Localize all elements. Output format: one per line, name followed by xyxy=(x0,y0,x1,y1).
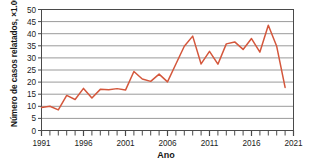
y-tick-label: 15 xyxy=(27,90,37,99)
y-tick-labels-group: 05101520253035404550 xyxy=(27,6,37,136)
y-tick-label: 20 xyxy=(27,78,37,87)
y-tick-label: 40 xyxy=(27,30,37,39)
y-tick-label: 0 xyxy=(31,127,36,136)
y-tick-label: 45 xyxy=(27,18,37,27)
x-tick-label: 1996 xyxy=(74,139,93,148)
y-tick-label: 35 xyxy=(27,42,37,51)
y-tick-label: 30 xyxy=(27,54,37,63)
x-tick-label: 2011 xyxy=(201,139,219,148)
chart-plot-svg: 05101520253035404550 1991199620012006201… xyxy=(0,0,309,165)
y-tick-marks-group xyxy=(38,10,42,131)
y-tick-label: 50 xyxy=(27,6,37,15)
line-chart-figure: Número de casos relatados, ×1.000 Ano 05… xyxy=(0,0,309,165)
y-tick-label: 5 xyxy=(31,114,36,123)
x-tick-label: 2021 xyxy=(284,139,303,148)
x-tick-marks-group xyxy=(42,131,294,137)
x-tick-label: 2001 xyxy=(116,139,135,148)
x-tick-label: 2016 xyxy=(242,139,261,148)
x-tick-labels-group: 1991199620012006201120162021 xyxy=(32,139,303,148)
x-tick-label: 2006 xyxy=(158,139,177,148)
x-tick-label: 1991 xyxy=(32,139,51,148)
y-tick-label: 25 xyxy=(27,66,37,75)
y-tick-label: 10 xyxy=(27,102,37,111)
